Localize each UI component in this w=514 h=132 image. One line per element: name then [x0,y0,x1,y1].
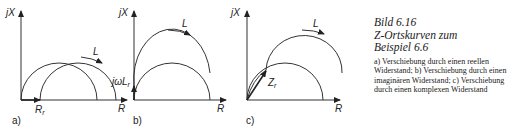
caption-example-ref: Beispiel 6.6 [374,41,514,54]
y-axis-label: jX [4,7,15,18]
x-axis-label: R [118,103,125,114]
panel-label: b) [133,115,142,126]
caption-title: Bild 6.16 Z-Ortskurven zum Beispiel 6.6 [374,16,514,54]
shift-label: jωLr [110,76,131,88]
caption-title-line: Z-Ortskurven zum [374,29,514,42]
y-axis-label: jX [117,7,128,18]
panel-b: jX R L jωLr b) [110,7,226,126]
caption-body: a) Verschiebung durch einen reellen Wide… [374,57,514,95]
shift-label: Zr [267,77,277,89]
shifted-locus-arc [134,29,210,86]
original-locus-semicircle [21,63,97,100]
x-axis-label: R [217,103,224,114]
impedance-locus-figure: jX R L Rr a) jX R L jωLr b) jX R L Zr c) [0,0,370,132]
shifted-locus-semicircle [40,63,116,100]
x-axis-label: R [335,103,342,114]
shift-label: Rr [35,104,45,116]
original-locus-semicircle [134,63,210,100]
panel-c: jX R L Zr c) [229,7,342,126]
panel-a: jX R L Rr a) [4,7,127,126]
caption-figure-number: Bild 6.16 [374,16,514,29]
panel-label: c) [246,115,254,126]
panel-label: a) [12,115,21,126]
direction-label: L [93,46,99,57]
y-axis-label: jX [229,7,240,18]
direction-label: L [182,18,188,29]
direction-arrow [81,57,102,63]
direction-label: L [313,18,319,29]
direction-arrow [302,30,324,34]
figure-caption: Bild 6.16 Z-Ortskurven zum Beispiel 6.6 … [374,16,514,95]
